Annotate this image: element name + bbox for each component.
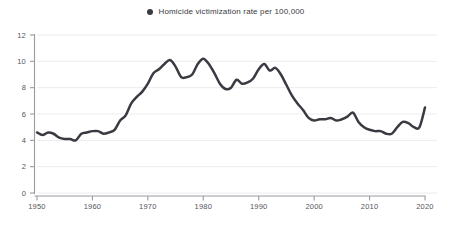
- x-axis-tick-label: 1950: [28, 202, 46, 211]
- y-axis-tick-label: 12: [17, 31, 26, 40]
- x-axis-tick-label: 2010: [361, 202, 379, 211]
- y-axis-tick-label: 0: [22, 189, 26, 198]
- y-axis: 024681012: [17, 31, 34, 198]
- x-axis-tick-label: 1970: [139, 202, 157, 211]
- x-axis-tick-label: 1960: [84, 202, 102, 211]
- x-axis: 19501960197019801990200020102020: [28, 196, 434, 211]
- x-axis-tick-label: 2020: [416, 202, 434, 211]
- y-axis-tick-label: 8: [22, 83, 26, 92]
- x-axis-tick-label: 2000: [305, 202, 323, 211]
- y-axis-tick-label: 6: [22, 110, 26, 119]
- y-axis-tick-label: 2: [22, 162, 26, 171]
- y-axis-tick-label: 10: [17, 57, 26, 66]
- x-axis-tick-label: 1980: [195, 202, 213, 211]
- y-axis-tick-label: 4: [22, 136, 26, 145]
- chart-container: Homicide victimization rate per 100,000 …: [0, 0, 451, 226]
- x-axis-tick-label: 1990: [250, 202, 268, 211]
- gridlines: [37, 35, 437, 193]
- data-series-line: [37, 59, 425, 141]
- line-chart-plot: 0246810121950196019701980199020002010202…: [0, 0, 451, 226]
